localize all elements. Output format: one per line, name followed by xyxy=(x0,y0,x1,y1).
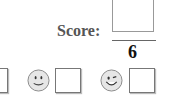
winking-smiley-icon xyxy=(100,69,123,92)
checkbox-smiley[interactable] xyxy=(55,68,81,93)
smiley-icon xyxy=(27,69,50,92)
fraction-line xyxy=(112,40,156,41)
score-label: Score: xyxy=(57,22,100,40)
score-input-box[interactable] xyxy=(112,0,154,32)
checkbox-partial[interactable] xyxy=(0,68,8,93)
checkbox-wink[interactable] xyxy=(129,68,155,93)
score-total: 6 xyxy=(128,42,137,63)
